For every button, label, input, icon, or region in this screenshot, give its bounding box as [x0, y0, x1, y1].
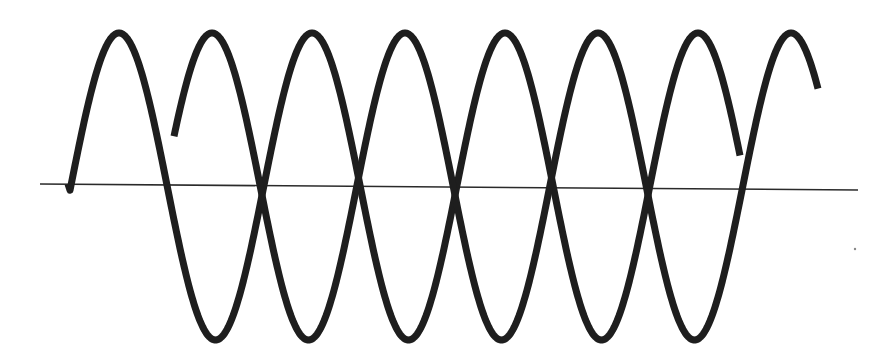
wave-diagram	[0, 0, 888, 363]
baseline	[40, 184, 858, 190]
speck	[854, 248, 856, 250]
